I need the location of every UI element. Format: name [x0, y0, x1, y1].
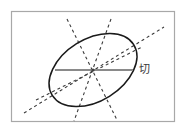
tangent-label: 切 [139, 64, 150, 75]
canvas-background [0, 0, 186, 131]
figure-canvas [0, 0, 186, 131]
figure-root: 切 [0, 0, 186, 131]
center-dot [91, 68, 94, 71]
